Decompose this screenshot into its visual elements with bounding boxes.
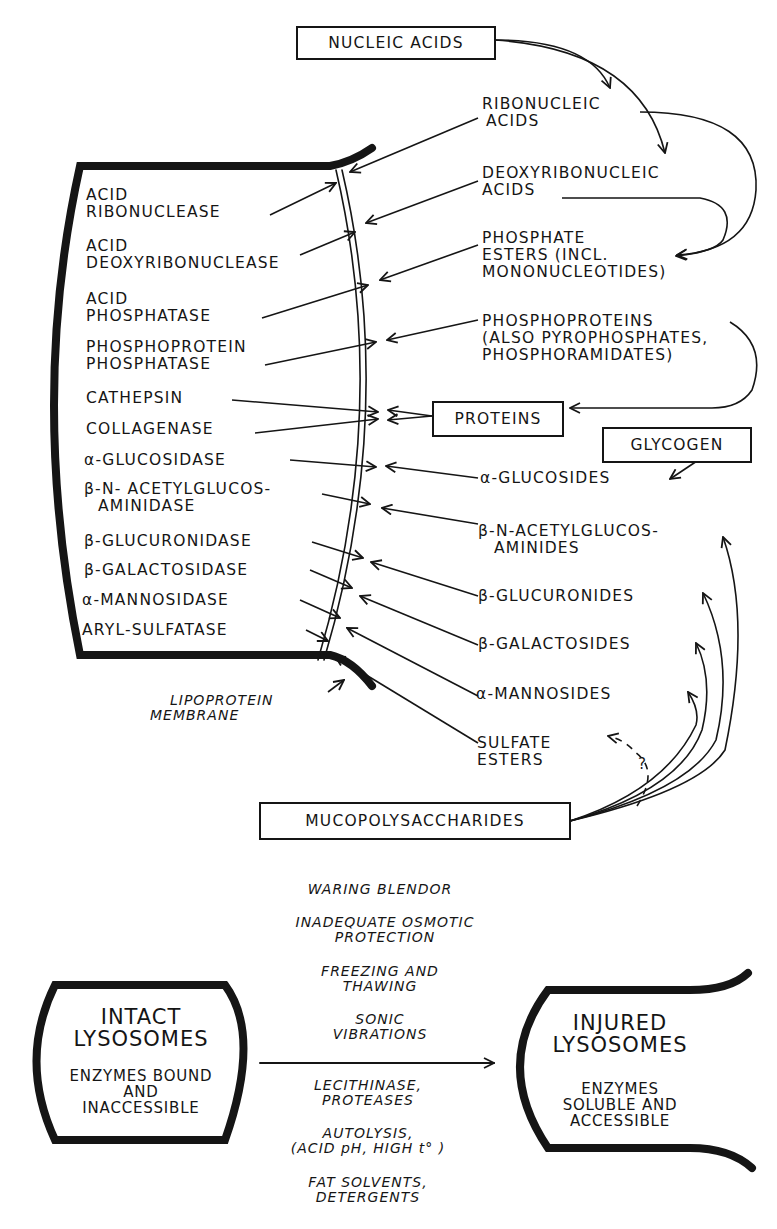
lipoprotein-membrane-label: LIPOPROTEIN MEMBRANE <box>150 693 274 723</box>
substrate-alpha-mannosides: α-MANNOSIDES <box>476 686 612 703</box>
substrate-beta-n-acetylglucosaminides: β-N-ACETYLGLUCOS- AMINIDES <box>478 523 659 557</box>
substrate-deoxyribonucleic-acids: DEOXYRIBONUCLEIC ACIDS <box>482 165 660 199</box>
substrate-alpha-glucosides: α-GLUCOSIDES <box>480 470 610 487</box>
injured-lysosomes-title: INJURED LYSOSOMES <box>525 1012 715 1056</box>
membrane-outer <box>318 170 360 660</box>
lysosome-diagram: NUCLEIC ACIDS PROTEINS GLYCOGEN MUCOPOLY… <box>0 0 777 1229</box>
enzyme-beta-galactosidase: β-GALACTOSIDASE <box>84 562 248 579</box>
cause-fat-solvents-detergents: FAT SOLVENTS, DETERGENTS <box>250 1175 486 1205</box>
enzyme-collagenase: COLLAGENASE <box>86 421 214 438</box>
enzyme-beta-glucuronidase: β-GLUCURONIDASE <box>84 533 252 550</box>
nucleic-acids-label: NUCLEIC ACIDS <box>328 34 464 52</box>
cause-inadequate-osmotic-protection: INADEQUATE OSMOTIC PROTECTION <box>250 915 520 945</box>
mucopolysaccharides-label: MUCOPOLYSACCHARIDES <box>305 812 524 830</box>
proteins-label: PROTEINS <box>454 410 541 428</box>
proteins-box: PROTEINS <box>432 401 564 437</box>
substrate-sulfate-esters: SULFATE ESTERS <box>477 735 551 769</box>
nucleic-acids-box: NUCLEIC ACIDS <box>296 26 496 60</box>
cause-sonic-vibrations: SONIC VIBRATIONS <box>250 1012 510 1042</box>
enzyme-alpha-glucosidase: α-GLUCOSIDASE <box>84 452 226 469</box>
cause-autolysis: AUTOLYSIS, (ACID pH, HIGH t° ) <box>250 1126 486 1156</box>
enzyme-beta-n-acetylglucosaminidase: β-N- ACETYLGLUCOS- AMINIDASE <box>84 481 271 515</box>
enzyme-acid-ribonuclease: ACID RIBONUCLEASE <box>86 187 221 221</box>
intact-lysosomes-description: ENZYMES BOUND AND INACCESSIBLE <box>24 1068 258 1116</box>
glycogen-label: GLYCOGEN <box>630 436 723 454</box>
cause-waring-blendor: WARING BLENDOR <box>250 882 510 897</box>
enzyme-alpha-mannosidase: α-MANNOSIDASE <box>82 592 229 609</box>
intact-lysosomes-title: INTACT LYSOSOMES <box>30 1006 252 1050</box>
uncertain-question-mark: ? <box>638 756 647 773</box>
injured-lysosomes-description: ENZYMES SOLUBLE AND ACCESSIBLE <box>525 1081 715 1129</box>
cause-freezing-and-thawing: FREEZING AND THAWING <box>250 964 510 994</box>
substrate-ribonucleic-acids: RIBONUCLEIC ACIDS <box>482 96 601 130</box>
enzyme-cathepsin: CATHEPSIN <box>86 390 183 407</box>
enzyme-acid-phosphatase: ACID PHOSPHATASE <box>86 291 211 325</box>
substrate-beta-galactosides: β-GALACTOSIDES <box>478 636 631 653</box>
substrate-phosphate-esters: PHOSPHATE ESTERS (INCL. MONONUCLEOTIDES) <box>482 230 667 281</box>
substrate-beta-glucuronides: β-GLUCURONIDES <box>478 588 634 605</box>
injured-lysosome-outline <box>520 973 752 1168</box>
enzyme-phosphoprotein-phosphatase: PHOSPHOPROTEIN PHOSPHATASE <box>86 339 247 373</box>
cause-lecithinase-proteases: LECITHINASE, PROTEASES <box>250 1078 486 1108</box>
enzyme-acid-deoxyribonuclease: ACID DEOXYRIBONUCLEASE <box>86 238 280 272</box>
substrate-phosphoproteins: PHOSPHOPROTEINS (ALSO PYROPHOSPHATES, PH… <box>482 313 708 364</box>
glycogen-box: GLYCOGEN <box>602 427 752 463</box>
mucopolysaccharides-box: MUCOPOLYSACCHARIDES <box>259 802 571 840</box>
enzyme-aryl-sulfatase: ARYL-SULFATASE <box>82 622 228 639</box>
